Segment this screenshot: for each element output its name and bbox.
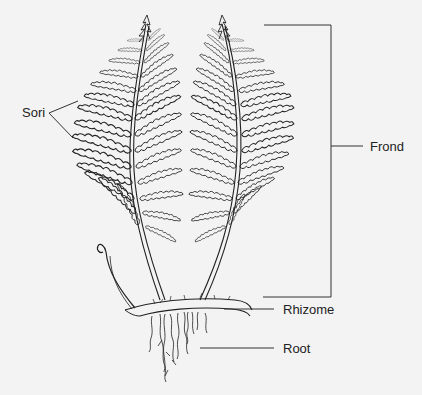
leader-lines [49,25,363,348]
roots [149,312,207,382]
right-frond [189,15,295,300]
rhizome [125,293,252,316]
rhizome-label: Rhizome [283,303,334,316]
frond-label: Frond [370,140,404,153]
fiddlehead [97,244,135,309]
fern-diagram [0,0,422,395]
sori-label: Sori [22,106,45,119]
root-label: Root [283,342,310,355]
left-frond [72,15,183,300]
